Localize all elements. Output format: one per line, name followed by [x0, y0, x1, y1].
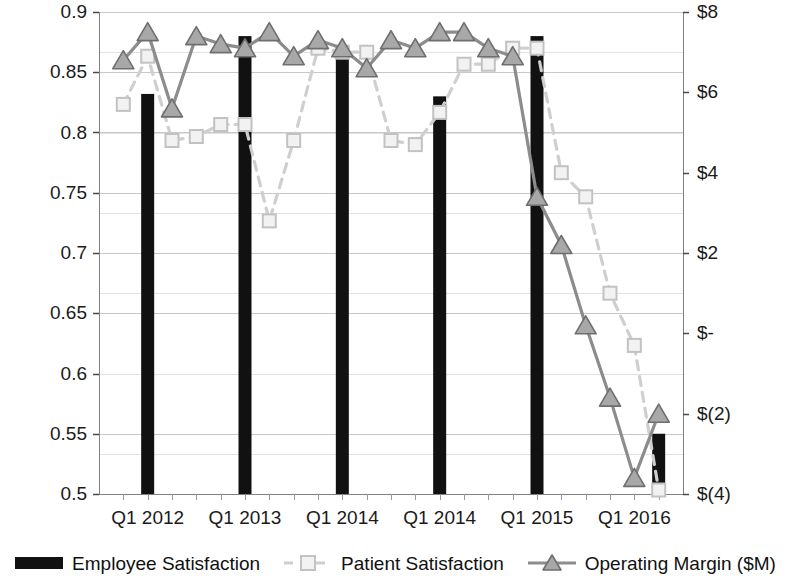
- square-marker: [214, 118, 227, 131]
- x-axis-tick-label: Q1 2013: [190, 508, 300, 527]
- square-marker: [263, 214, 276, 227]
- square-marker: [555, 166, 568, 179]
- y-axis-left-tick-label: 0.8: [61, 123, 87, 142]
- bar: [531, 36, 544, 494]
- y-axis-left-tick-label: 0.5: [61, 484, 87, 503]
- y-axis-left-tick-label: 0.9: [61, 2, 87, 21]
- gridlines: [99, 13, 683, 495]
- y-axis-right-tick-label: $6: [697, 82, 718, 101]
- chart-legend: Employee SatisfactionPatient Satisfactio…: [0, 548, 789, 578]
- legend-item[interactable]: Operating Margin ($M): [526, 553, 776, 573]
- y-axis-right-tick-label: $(2): [697, 404, 731, 423]
- y-axis-left-tick-label: 0.75: [50, 183, 87, 202]
- y-axis-left-tick-label: 0.85: [50, 62, 87, 81]
- x-axis-tick-label: Q1 2014: [385, 508, 495, 527]
- triangle-marker: [551, 236, 572, 254]
- bar: [433, 96, 446, 494]
- y-axis-left-tick-label: 0.6: [61, 364, 87, 383]
- triangle-marker-icon: [526, 553, 578, 573]
- bar-series-employee-satisfaction: [141, 36, 665, 494]
- y-axis-right-tick-label: $4: [697, 163, 718, 182]
- x-axis-tick-label: Q1 2015: [482, 508, 592, 527]
- triangle-marker: [527, 187, 548, 205]
- triangle-marker: [137, 23, 158, 41]
- y-axis-left-tick-label: 0.65: [50, 303, 87, 322]
- bar-swatch-icon: [13, 553, 65, 573]
- square-marker: [385, 134, 398, 147]
- y-axis-left-tick-label: 0.55: [50, 424, 87, 443]
- square-marker: [628, 339, 641, 352]
- y-axis-right-tick-label: $-: [697, 323, 714, 342]
- legend-item-label: Patient Satisfaction: [341, 554, 504, 573]
- bar: [336, 58, 349, 494]
- square-marker: [652, 484, 665, 497]
- bar: [141, 94, 154, 494]
- x-axis-tick-label: Q1 2012: [93, 508, 203, 527]
- legend-item-label: Operating Margin ($M): [585, 554, 776, 573]
- triangle-marker: [162, 99, 183, 117]
- triangle-marker: [575, 316, 596, 334]
- triangle-marker: [405, 39, 426, 57]
- square-marker: [239, 118, 252, 131]
- y-axis-left-tick-label: 0.7: [61, 243, 87, 262]
- series-path: [123, 48, 658, 490]
- triangle-marker: [624, 468, 645, 486]
- legend-item[interactable]: Employee Satisfaction: [13, 553, 260, 573]
- chart-plot-area: [0, 0, 789, 587]
- square-marker: [360, 46, 373, 59]
- triangle-marker: [259, 23, 280, 41]
- square-marker: [190, 130, 203, 143]
- legend-item[interactable]: Patient Satisfaction: [282, 553, 504, 573]
- series-path: [123, 32, 658, 478]
- square-marker: [409, 138, 422, 151]
- x-axis-tick-label: Q1 2014: [287, 508, 397, 527]
- y-axis-right-tick-label: $2: [697, 243, 718, 262]
- x-axis-tick-label: Q1 2016: [579, 508, 689, 527]
- square-marker: [531, 42, 544, 55]
- square-marker: [458, 58, 471, 71]
- square-marker: [579, 190, 592, 203]
- y-axis-right-tick-label: $(4): [697, 484, 731, 503]
- bar: [239, 36, 252, 494]
- square-marker: [117, 98, 130, 111]
- y-axis-right-tick-label: $8: [697, 2, 718, 21]
- triangle-marker: [478, 39, 499, 57]
- square-marker: [287, 134, 300, 147]
- line-series-operating-margin-m: [113, 23, 669, 487]
- triangle-marker: [210, 35, 231, 53]
- square-marker-icon: [282, 553, 334, 573]
- triangle-marker: [648, 404, 669, 422]
- chart-container: 0.90.850.80.750.70.650.60.550.5$8$6$4$2$…: [0, 0, 789, 587]
- triangle-marker: [308, 31, 329, 49]
- square-marker: [604, 287, 617, 300]
- triangle-marker: [186, 27, 207, 45]
- triangle-marker: [600, 388, 621, 406]
- square-marker: [433, 106, 446, 119]
- line-series-patient-satisfaction: [117, 42, 665, 497]
- legend-item-label: Employee Satisfaction: [72, 554, 260, 573]
- square-marker: [482, 58, 495, 71]
- triangle-marker: [381, 31, 402, 49]
- square-marker: [166, 134, 179, 147]
